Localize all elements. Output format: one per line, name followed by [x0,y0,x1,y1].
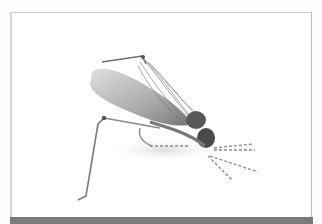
thorax [186,111,206,129]
head [197,128,215,148]
photo-canvas [0,0,322,224]
upper-leg [102,56,146,64]
fly-lure-photo [0,0,322,224]
bottom-bar [10,217,313,224]
rear-leg [78,118,104,200]
